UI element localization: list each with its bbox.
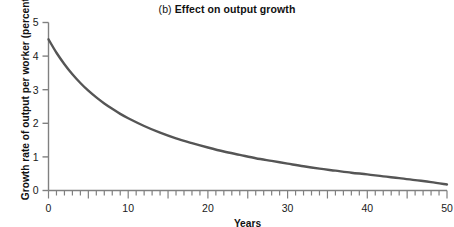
- y-tick-label: 4: [33, 50, 39, 62]
- y-axis-ticks: 012345: [33, 16, 49, 196]
- y-tick-label: 0: [33, 184, 39, 196]
- chart-figure: (b) Effect on output growth Growth rate …: [0, 0, 454, 227]
- x-tick-label: 0: [46, 202, 52, 214]
- x-tick-label: 10: [122, 202, 134, 214]
- x-tick-label: 20: [202, 202, 214, 214]
- y-tick-label: 3: [33, 84, 39, 96]
- series-line: [49, 39, 448, 184]
- x-axis-ticks: 01020304050: [46, 191, 453, 214]
- x-tick-label: 50: [441, 202, 453, 214]
- x-axis-title: Years: [48, 218, 447, 227]
- plot-area: 012345 01020304050: [0, 0, 454, 227]
- y-tick-label: 2: [33, 117, 39, 129]
- y-tick-label: 5: [33, 16, 39, 28]
- data-series: [49, 39, 448, 184]
- y-tick-label: 1: [33, 151, 39, 163]
- x-tick-label: 30: [282, 202, 294, 214]
- x-tick-label: 40: [361, 202, 373, 214]
